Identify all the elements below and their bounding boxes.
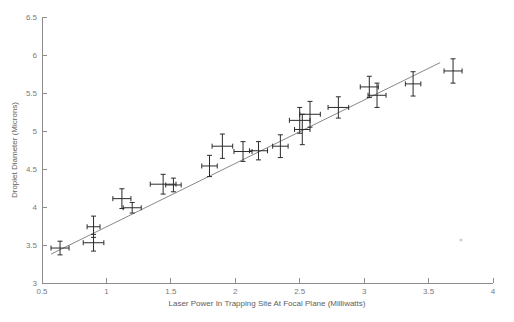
data-point-errorbar xyxy=(249,142,267,160)
x-tick-label: 3 xyxy=(362,287,367,296)
fit-line xyxy=(51,63,440,255)
data-point-errorbar xyxy=(113,189,131,209)
data-point-errorbar xyxy=(405,72,420,96)
y-tick-label: 3.5 xyxy=(26,241,38,250)
data-point-errorbar xyxy=(295,114,310,144)
x-tick-label: 2.5 xyxy=(294,287,306,296)
x-axis-title: Laser Power In Trapping Site At Focal Pl… xyxy=(169,299,366,308)
data-point-errorbar xyxy=(166,178,181,192)
x-tick-label: 0.5 xyxy=(36,287,48,296)
x-tick-label: 1.5 xyxy=(165,287,177,296)
y-tick-label: 5.5 xyxy=(26,89,38,98)
chart-container: 33.544.555.566.5 0.511.522.533.54 Laser … xyxy=(0,0,514,322)
x-tick-label: 1 xyxy=(104,287,109,296)
y-tick-label: 5 xyxy=(33,127,38,136)
x-tick-label: 3.5 xyxy=(423,287,435,296)
data-point-errorbar xyxy=(212,134,233,158)
y-tick-label: 4.5 xyxy=(26,165,38,174)
x-tick-label: 2 xyxy=(233,287,238,296)
x-tick-label: 4 xyxy=(491,287,496,296)
y-axis-ticks: 33.544.555.566.5 xyxy=(26,13,47,288)
data-point-errorbar xyxy=(150,174,176,194)
image-artifact-speck xyxy=(459,238,462,241)
scatter-plot-svg: 33.544.555.566.5 0.511.522.533.54 Laser … xyxy=(0,0,514,322)
x-axis-ticks: 0.511.522.533.54 xyxy=(36,278,495,296)
data-point-errorbar xyxy=(444,59,462,83)
fit-line-segment xyxy=(51,63,440,255)
y-tick-label: 4 xyxy=(33,203,38,212)
y-tick-label: 6.5 xyxy=(26,13,38,22)
data-points xyxy=(51,59,462,255)
data-point-errorbar xyxy=(328,97,349,118)
y-tick-label: 6 xyxy=(33,51,38,60)
y-axis-title: Droplet Diameter (Microns) xyxy=(10,102,19,198)
